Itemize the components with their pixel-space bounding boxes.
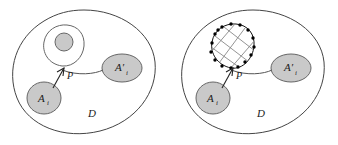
left-domain-label: D: [87, 107, 96, 119]
left-source-blob-label: A: [37, 92, 45, 104]
right-source-blob-subscript: i: [216, 99, 218, 107]
right-source-blob-label: A: [206, 92, 214, 104]
left-source-blob-subscript: i: [47, 99, 49, 107]
right-target-blob-subscript: i: [295, 69, 297, 77]
left-target-blob-label: A′: [114, 61, 125, 73]
left-panel: A i A′ i P D: [0, 0, 169, 145]
left-target-blob-subscript: i: [126, 69, 128, 77]
right-point-label: P: [235, 70, 242, 81]
left-small-disk: [55, 33, 73, 51]
left-point-label: P: [66, 70, 73, 81]
right-target-blob-label: A′: [283, 61, 294, 73]
right-domain-label: D: [256, 107, 265, 119]
figure-container: A i A′ i P D: [0, 0, 338, 145]
right-panel: A i A′ i P D: [169, 0, 338, 145]
